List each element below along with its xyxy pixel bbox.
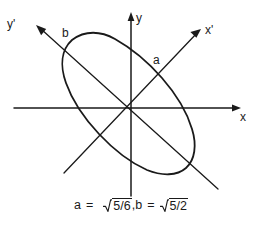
diagram-canvas bbox=[0, 0, 262, 225]
caption-a-equals: = bbox=[86, 199, 93, 212]
caption: a=5/6, b=5/2 bbox=[0, 198, 262, 213]
caption-b-radicand: 5/2 bbox=[169, 198, 188, 213]
sqrt-a: 5/6 bbox=[103, 198, 131, 213]
figure-root: y' x' y x a b a=5/6, b=5/2 bbox=[0, 0, 262, 225]
point-label-b: b bbox=[62, 27, 69, 39]
y-axis bbox=[128, 12, 135, 196]
arrow-up-left-icon bbox=[36, 25, 46, 35]
x-axis-label: x bbox=[240, 111, 246, 123]
caption-b-name: b bbox=[135, 199, 142, 212]
caption-a-name: a bbox=[74, 199, 81, 212]
point-label-a: a bbox=[153, 54, 160, 66]
y-prime-axis-label: y' bbox=[7, 18, 15, 30]
caption-a-radicand: 5/6 bbox=[112, 198, 131, 213]
arrow-up-icon bbox=[128, 12, 135, 21]
y-prime-axis bbox=[36, 25, 218, 189]
radical-sign-icon bbox=[103, 199, 112, 212]
y-axis-label: y bbox=[136, 12, 142, 24]
y-prime-axis-line bbox=[41, 29, 218, 189]
caption-b-equals: = bbox=[147, 199, 154, 212]
x-prime-axis-label: x' bbox=[205, 24, 213, 36]
sqrt-b: 5/2 bbox=[160, 198, 188, 213]
arrow-up-right-icon bbox=[190, 29, 201, 38]
radical-sign-icon bbox=[160, 199, 169, 212]
